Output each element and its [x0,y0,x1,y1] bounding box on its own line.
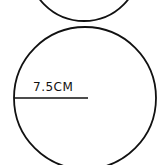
main-circle [14,27,156,165]
top-circle [28,0,140,21]
diagram-canvas: 7.5CM [0,0,163,165]
radius-label: 7.5CM [33,80,73,94]
